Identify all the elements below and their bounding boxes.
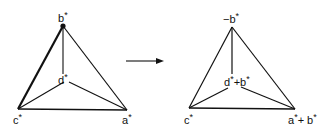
edge-c-a [18, 109, 127, 110]
label-c-star: c* [13, 112, 23, 126]
edge-bottom [189, 108, 295, 109]
arrow-head-icon [156, 58, 164, 64]
transform-arrow [126, 58, 164, 64]
label-neg-b-star: −b* [223, 11, 240, 25]
right-tetrahedron [189, 27, 295, 109]
label-d-plus-b-star: d*+b* [224, 74, 250, 88]
vertex-b-dot [60, 23, 65, 28]
label-b-star: b* [58, 10, 68, 24]
label-a-plus-b-star: a*+ b* [288, 112, 317, 126]
label-a-star: a* [122, 112, 132, 126]
edge-d-a [69, 82, 127, 110]
edge-top-left [189, 27, 232, 108]
label-c-star-right: c* [184, 112, 194, 126]
left-tetrahedron [18, 23, 127, 110]
edge-b-c [18, 26, 63, 109]
label-d-star: d* [58, 72, 68, 86]
edge-b-a [63, 26, 127, 110]
diagram-canvas: b* d* c* a* −b* d*+b* c* a*+ b* [0, 0, 325, 129]
